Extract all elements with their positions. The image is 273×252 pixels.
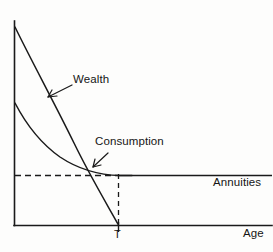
wealth-consumption-annuities-figure: Wealth Consumption Annuities Age T	[0, 0, 273, 252]
wealth-label: Wealth	[73, 74, 109, 86]
age-axis-label: Age	[243, 228, 264, 240]
t-marker-label: T	[114, 229, 121, 240]
figure-canvas	[0, 0, 273, 252]
annuities-label: Annuities	[213, 177, 261, 189]
wealth-curve	[15, 27, 119, 225]
consumption-label: Consumption	[95, 136, 164, 148]
